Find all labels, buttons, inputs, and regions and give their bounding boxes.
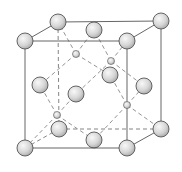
atom-face-left (32, 77, 48, 93)
atom-corner-front-top-left (17, 33, 33, 49)
atom-face-bottom (86, 132, 102, 148)
cube-edge (58, 21, 161, 22)
atom-face-right (136, 78, 152, 94)
atom-corner-front-top-right (119, 33, 135, 49)
atom-corner-back-top-left (50, 14, 66, 30)
atom-corner-front-bottom-right (119, 140, 135, 156)
atom-corner-back-bottom-right (153, 121, 169, 137)
atom-tetra-4 (124, 102, 131, 109)
atom-face-back (102, 67, 118, 83)
atom-tetra-1 (73, 51, 80, 58)
atom-corner-front-bottom-left (17, 140, 33, 156)
atom-corner-back-bottom-left (51, 121, 67, 137)
crystal-unit-cell-diagram (0, 0, 182, 172)
atom-corner-back-top-right (153, 13, 169, 29)
atom-tetra-3 (54, 112, 61, 119)
atom-face-front (68, 86, 84, 102)
back-atoms (51, 67, 118, 148)
small-atoms (54, 51, 131, 119)
atom-face-top (86, 22, 102, 38)
atom-tetra-2 (108, 58, 115, 65)
